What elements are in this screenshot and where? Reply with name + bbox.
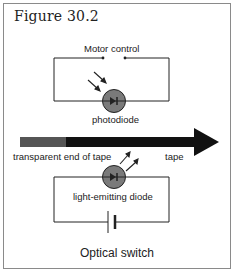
- incoming-light-arrows-icon: [88, 72, 106, 91]
- emitted-light-arrows-icon: [120, 152, 138, 171]
- transparent-end-label: transparent end of tape: [13, 151, 111, 162]
- tape-label: tape: [165, 151, 184, 162]
- figure-caption: Optical switch: [80, 246, 154, 260]
- switch-contacts: [102, 57, 127, 60]
- motor-control-label: Motor control: [84, 43, 139, 54]
- led-icon: [103, 166, 126, 189]
- photodiode-label: photodiode: [92, 114, 139, 125]
- battery-icon: [108, 211, 115, 233]
- photodiode-icon: [103, 90, 126, 113]
- led-label: light-emitting diode: [73, 191, 153, 202]
- optical-switch-diagram: [0, 0, 236, 276]
